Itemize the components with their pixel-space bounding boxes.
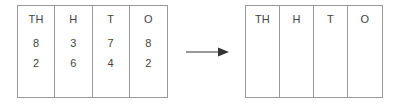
table-cell: 6 — [70, 53, 76, 73]
table-cell: 2 — [33, 53, 39, 73]
target-column-th[interactable]: TH — [246, 6, 280, 97]
source-column-t: T 7 4 — [93, 6, 130, 97]
source-place-value-table: TH 8 2 H 3 6 T 7 4 O — [17, 5, 168, 98]
target-column-h-cells[interactable] — [295, 33, 298, 93]
target-column-t-cells[interactable] — [329, 33, 332, 93]
column-header-h: H — [292, 13, 300, 26]
table-cell: 2 — [145, 53, 151, 73]
column-header-h: H — [69, 13, 77, 26]
diagram-canvas: TH 8 2 H 3 6 T 7 4 O — [0, 0, 400, 106]
column-header-o: O — [361, 13, 370, 26]
column-header-t: T — [327, 13, 334, 26]
target-column-o-cells[interactable] — [363, 33, 366, 93]
column-header-th: TH — [29, 13, 44, 26]
arrow-right-icon — [184, 44, 232, 60]
target-place-value-table: TH H T O — [245, 5, 383, 98]
column-header-o: O — [144, 13, 153, 26]
target-column-th-cells[interactable] — [261, 33, 264, 93]
table-cell: 7 — [108, 33, 114, 53]
source-column-t-cells: 7 4 — [108, 33, 114, 93]
source-column-th-cells: 8 2 — [33, 33, 39, 93]
source-column-th: TH 8 2 — [18, 6, 55, 97]
source-column-h-cells: 3 6 — [70, 33, 76, 93]
target-column-h[interactable]: H — [280, 6, 314, 97]
column-header-th: TH — [255, 13, 270, 26]
source-column-o-cells: 8 2 — [145, 33, 151, 93]
target-column-o[interactable]: O — [348, 6, 382, 97]
column-header-t: T — [107, 13, 114, 26]
target-column-t[interactable]: T — [314, 6, 348, 97]
table-cell: 8 — [145, 33, 151, 53]
table-cell: 4 — [108, 53, 114, 73]
table-cell: 8 — [33, 33, 39, 53]
source-column-h: H 3 6 — [55, 6, 92, 97]
table-cell: 3 — [70, 33, 76, 53]
source-column-o: O 8 2 — [130, 6, 167, 97]
